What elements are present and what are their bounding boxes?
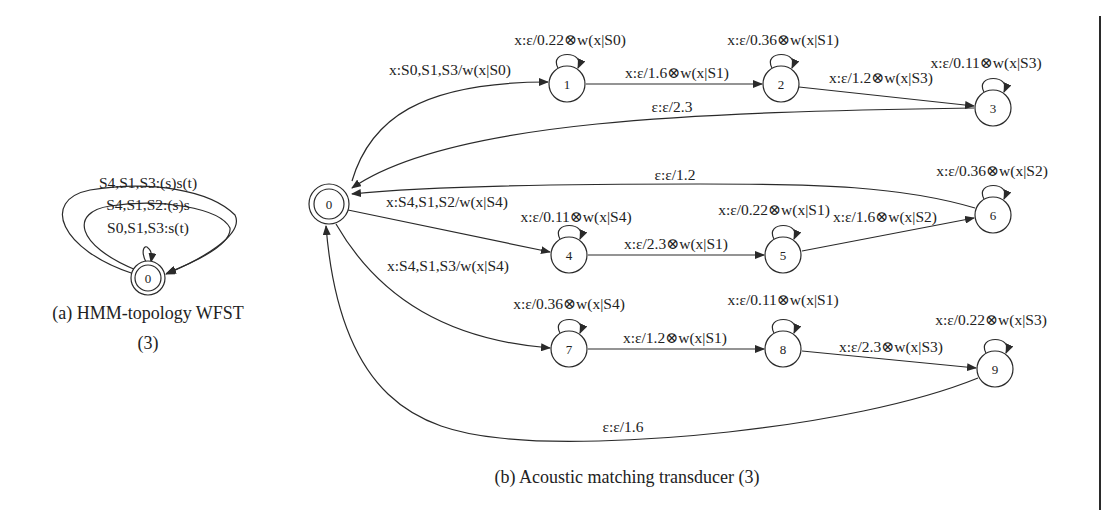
caption-a-line2: (3) <box>138 333 159 354</box>
loop-label-1: x:ε/0.22⊗w(x|S0) <box>514 31 626 49</box>
state-8-label: 8 <box>780 342 787 357</box>
caption-a-line1: (a) HMM-topology WFST <box>52 303 244 324</box>
state-1: 1 <box>549 66 585 102</box>
state-0-label: 0 <box>326 197 333 212</box>
state-7-label: 7 <box>566 342 573 357</box>
state-9: 9 <box>977 351 1013 387</box>
arc-label-3-0: ε:ε/2.3 <box>651 98 692 115</box>
arc-label-4-5: x:ε/2.3⊗w(x|S1) <box>624 235 728 253</box>
arc-label-2-3: x:ε/1.2⊗w(x|S3) <box>829 69 933 87</box>
state-5: 5 <box>765 237 801 273</box>
state-a-0: 0 <box>131 261 165 295</box>
caption-b: (b) Acoustic matching transducer (3) <box>495 467 760 488</box>
loop-label-4: x:ε/0.11⊗w(x|S4) <box>520 208 631 226</box>
state-5-label: 5 <box>780 248 787 263</box>
state-a-0-label: 0 <box>145 271 152 286</box>
state-2: 2 <box>763 66 799 102</box>
arc-a-label-3: S0,S1,S3:s(t) <box>107 219 189 237</box>
figure-canvas: S4,S1,S3:(s)s(t) S4,S1,S2:(s)s S0,S1,S3:… <box>0 0 1103 515</box>
arc-label-9-0: ε:ε/1.6 <box>602 418 643 435</box>
state-7: 7 <box>551 331 587 367</box>
arc-label-6-0: ε:ε/1.2 <box>654 166 695 183</box>
arc-0-7 <box>336 224 550 348</box>
arc-label-0-1: x:S0,S1,S3/w(x|S0) <box>389 61 511 79</box>
arc-label-8-9: x:ε/2.3⊗w(x|S3) <box>839 338 943 356</box>
state-9-label: 9 <box>992 362 999 377</box>
state-8: 8 <box>765 331 801 367</box>
state-4: 4 <box>551 237 587 273</box>
arc-label-7-8: x:ε/1.2⊗w(x|S1) <box>623 329 727 347</box>
arc-a-loop-small <box>143 247 151 262</box>
loop-label-2: x:ε/0.36⊗w(x|S1) <box>727 31 839 49</box>
state-3: 3 <box>975 90 1011 126</box>
panel-a-hmm-topology: S4,S1,S3:(s)s(t) S4,S1,S2:(s)s S0,S1,S3:… <box>52 174 244 354</box>
state-1-label: 1 <box>564 77 571 92</box>
loop-label-5: x:ε/0.22⊗w(x|S1) <box>718 201 830 219</box>
arc-label-1-2: x:ε/1.6⊗w(x|S1) <box>625 64 729 82</box>
state-3-label: 3 <box>990 101 997 116</box>
state-6: 6 <box>975 197 1011 233</box>
panel-b-acoustic-transducer: x:S0,S1,S3/w(x|S0) x:ε/0.22⊗w(x|S0) x:ε/… <box>309 31 1048 488</box>
state-6-label: 6 <box>990 208 997 223</box>
loop-label-3: x:ε/0.11⊗w(x|S3) <box>930 54 1041 72</box>
state-0-final: 0 <box>309 184 349 224</box>
arc-a-label-1: S4,S1,S3:(s)s(t) <box>99 174 197 192</box>
state-2-label: 2 <box>778 77 785 92</box>
loop-label-6: x:ε/0.36⊗w(x|S2) <box>936 162 1048 180</box>
arc-2-3 <box>799 87 974 106</box>
state-4-label: 4 <box>566 248 573 263</box>
loop-label-7: x:ε/0.36⊗w(x|S4) <box>513 295 625 313</box>
loop-label-8: x:ε/0.11⊗w(x|S1) <box>727 291 838 309</box>
arc-0-1 <box>352 82 548 181</box>
arc-label-5-6: x:ε/1.6⊗w(x|S2) <box>833 208 937 226</box>
loop-label-9: x:ε/0.22⊗w(x|S3) <box>935 311 1047 329</box>
arc-label-0-7: x:S4,S1,S3/w(x|S4) <box>387 257 509 275</box>
arc-a-label-2: S4,S1,S2:(s)s <box>106 196 190 214</box>
arc-label-0-4: x:S4,S1,S2/w(x|S4) <box>386 193 508 211</box>
